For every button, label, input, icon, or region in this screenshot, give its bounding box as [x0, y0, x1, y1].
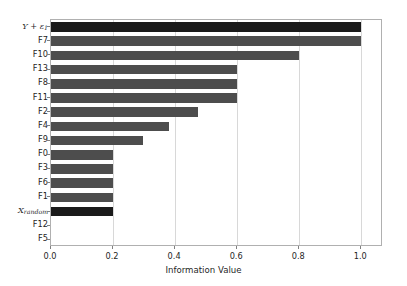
- y-tick-label-f12: F12: [33, 220, 48, 228]
- x-tick-label-0.6: 0.6: [230, 251, 243, 261]
- bar-row: [51, 36, 381, 46]
- y-tick-mark: [47, 97, 50, 98]
- x-tick-mark: [112, 246, 113, 249]
- bar-row: [51, 122, 381, 132]
- y-tick-label-x-random: Xrandom: [18, 206, 48, 215]
- y-tick-mark: [47, 40, 50, 41]
- y-tick-mark: [47, 83, 50, 84]
- y-tick-mark: [47, 182, 50, 183]
- x-tick-mark: [360, 246, 361, 249]
- y-tick-mark: [47, 196, 50, 197]
- y-tick-mark: [47, 125, 50, 126]
- y-tick-mark: [47, 54, 50, 55]
- bar-f9: [51, 136, 143, 146]
- y-tick-label-y-: Y + ε1: [22, 22, 48, 31]
- bar-row: [51, 51, 381, 61]
- x-tick-label-0.4: 0.4: [168, 251, 181, 261]
- bars-container: [51, 20, 381, 245]
- bar-row: [51, 150, 381, 160]
- bar-row: [51, 193, 381, 203]
- y-tick-mark: [47, 69, 50, 70]
- x-tick-label-0.0: 0.0: [43, 251, 56, 261]
- bar-x-random: [51, 207, 113, 217]
- x-tick-label-0.8: 0.8: [292, 251, 305, 261]
- bar-f11: [51, 93, 237, 103]
- bar-row: [51, 65, 381, 75]
- bar-row: [51, 207, 381, 217]
- bar-row: [51, 107, 381, 117]
- x-tick-label-1.0: 1.0: [354, 251, 367, 261]
- bar-f2: [51, 107, 198, 117]
- y-tick-label-f10: F10: [33, 50, 48, 58]
- x-axis-label: Information Value: [0, 265, 407, 275]
- bar-row: [51, 178, 381, 188]
- x-tick-mark: [174, 246, 175, 249]
- y-tick-mark: [47, 211, 50, 212]
- bar-f0: [51, 150, 113, 160]
- bar-row: [51, 79, 381, 89]
- bar-row: [51, 221, 381, 231]
- bar-y-: [51, 22, 361, 32]
- bar-f1: [51, 193, 113, 203]
- bar-row: [51, 22, 381, 32]
- bar-chart-figure: Y + ε1F7F10F13F8F11F2F4F9F0F3F6F1Xrandom…: [0, 0, 407, 286]
- bar-row: [51, 136, 381, 146]
- bar-f7: [51, 36, 361, 46]
- x-tick-label-0.2: 0.2: [106, 251, 119, 261]
- bar-f6: [51, 178, 113, 188]
- y-tick-mark: [47, 225, 50, 226]
- y-tick-mark: [47, 140, 50, 141]
- bar-f4: [51, 122, 169, 132]
- bar-row: [51, 93, 381, 103]
- x-tick-mark: [298, 246, 299, 249]
- bar-f8: [51, 79, 237, 89]
- bar-f10: [51, 51, 299, 61]
- y-tick-mark: [47, 111, 50, 112]
- y-tick-mark: [47, 26, 50, 27]
- plot-area: [50, 19, 382, 246]
- y-tick-mark: [47, 239, 50, 240]
- bar-row: [51, 235, 381, 245]
- bar-f13: [51, 65, 237, 75]
- y-tick-label-f13: F13: [33, 64, 48, 72]
- x-tick-mark: [50, 246, 51, 249]
- bar-row: [51, 164, 381, 174]
- bar-f3: [51, 164, 113, 174]
- y-tick-mark: [47, 168, 50, 169]
- x-tick-mark: [236, 246, 237, 249]
- y-tick-mark: [47, 154, 50, 155]
- y-tick-label-f11: F11: [33, 93, 48, 101]
